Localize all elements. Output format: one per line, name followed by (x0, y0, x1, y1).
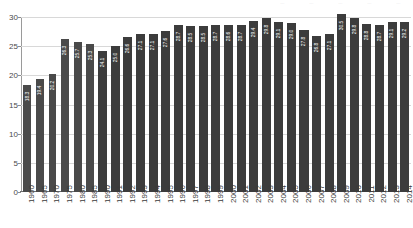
bar[interactable]: 26.3 (61, 39, 69, 192)
header-fragment: ... (281, 0, 285, 5)
bar[interactable]: 24.1 (98, 51, 107, 192)
bar[interactable]: 28.6 (224, 25, 233, 192)
bar[interactable]: 28.7 (211, 25, 220, 192)
bar-value-label: 26.6 (125, 44, 130, 53)
bar[interactable]: 30.5 (337, 14, 346, 192)
bar-slot: 27.1 (134, 17, 147, 192)
header-fragment: ... (397, 0, 401, 5)
bar[interactable]: 27.1 (325, 34, 334, 192)
bar-value-label: 28.6 (226, 32, 231, 41)
bar-slot: 29.4 (247, 17, 260, 192)
bar[interactable]: 25.0 (111, 46, 120, 192)
bar[interactable]: 29.8 (262, 18, 271, 192)
x-label-slot: 1997 (185, 193, 198, 228)
x-label-slot: 2007 (310, 193, 323, 228)
bar-value-label: 28.7 (213, 31, 218, 40)
bar-slot: 30.5 (335, 17, 348, 192)
bar-slot: 28.5 (197, 17, 210, 192)
bar-slot: 27.1 (323, 17, 336, 192)
bar-slot: 26.8 (310, 17, 323, 192)
bar-value-label: 28.5 (188, 33, 193, 42)
bar-slot: 25.3 (84, 17, 97, 192)
bar-value-label: 25.7 (75, 49, 80, 58)
y-axis-tick-label: 25 (9, 42, 18, 51)
bar[interactable]: 20.2 (49, 74, 57, 192)
plot-area: 051015202530 18.319.420.226.325.725.324.… (21, 17, 411, 192)
bar-slot: 28.8 (361, 17, 374, 192)
header-fragment: ... (368, 0, 372, 5)
bar-value-label: 29.1 (390, 29, 395, 38)
bar[interactable]: 29.8 (350, 18, 359, 192)
x-label-slot: 2014 (398, 193, 411, 228)
bar-value-label: 27.1 (151, 41, 156, 50)
x-label-slot: 1998 (197, 193, 210, 228)
bar-value-label: 26.8 (314, 43, 319, 52)
bar[interactable]: 27.1 (149, 34, 158, 192)
bar-value-label: 18.3 (25, 92, 30, 101)
bar[interactable]: 19.4 (36, 79, 44, 192)
x-label-slot: 1992 (122, 193, 135, 228)
x-label-slot: 1975 (59, 193, 72, 228)
bar[interactable]: 28.7 (375, 25, 384, 192)
x-label-slot: 2004 (273, 193, 286, 228)
bar-value-label: 29.1 (276, 29, 281, 38)
bar[interactable]: 27.6 (161, 31, 170, 192)
bar-value-label: 29.2 (402, 29, 407, 38)
bar[interactable]: 29.1 (388, 22, 397, 192)
x-label-slot: 1993 (134, 193, 147, 228)
bar[interactable]: 29.2 (400, 22, 409, 192)
x-axis-tick-label: 2014 (405, 185, 413, 203)
header-text-fragment: ............... (268, 0, 413, 8)
bar-value-label: 20.2 (50, 81, 55, 90)
bar-series: 18.319.420.226.325.725.324.125.026.627.1… (21, 17, 411, 192)
bar-slot: 28.5 (185, 17, 198, 192)
x-label-slot: 1965 (34, 193, 47, 228)
bar-slot: 20.2 (46, 17, 59, 192)
bar[interactable]: 29.0 (287, 23, 296, 192)
bar-value-label: 27.1 (327, 41, 332, 50)
bar-value-label: 26.3 (63, 45, 68, 54)
bar-slot: 29.8 (260, 17, 273, 192)
bar-slot: 25.0 (109, 17, 122, 192)
x-label-slot: 1999 (210, 193, 223, 228)
bar[interactable]: 29.4 (249, 21, 258, 193)
bar-slot: 26.3 (59, 17, 72, 192)
bar-value-label: 28.7 (176, 31, 181, 40)
bar-slot: 28.6 (222, 17, 235, 192)
x-label-slot: 2005 (285, 193, 298, 228)
header-fragment: ... (339, 0, 343, 5)
bar-slot: 24.1 (96, 17, 109, 192)
x-label-slot: 2006 (298, 193, 311, 228)
x-label-slot: 1996 (172, 193, 185, 228)
bar[interactable]: 28.5 (199, 26, 208, 192)
y-axis-tick-label: 30 (9, 13, 18, 22)
bar[interactable]: 27.1 (136, 34, 145, 192)
bar-value-label: 28.7 (239, 31, 244, 40)
bar-slot: 29.8 (348, 17, 361, 192)
bar-slot: 27.8 (298, 17, 311, 192)
bar[interactable]: 28.5 (186, 26, 195, 192)
bar[interactable]: 29.1 (274, 22, 283, 192)
bar[interactable]: 28.8 (362, 24, 371, 192)
bar-value-label: 28.7 (377, 31, 382, 40)
bar[interactable]: 26.6 (123, 37, 132, 192)
bar-slot: 29.1 (386, 17, 399, 192)
bar[interactable]: 25.3 (86, 44, 94, 192)
bar[interactable]: 18.3 (23, 85, 31, 192)
bar-value-label: 19.4 (37, 86, 42, 95)
x-label-slot: 1970 (46, 193, 59, 228)
x-label-slot: 2011 (361, 193, 374, 228)
bar-value-label: 24.1 (100, 58, 105, 67)
bar-chart: ............... 051015202530 18.319.420.… (0, 0, 413, 228)
x-axis-labels: 1960196519701975198019851990199119921993… (21, 193, 411, 228)
bar[interactable]: 25.7 (74, 42, 82, 192)
bar[interactable]: 28.7 (237, 25, 246, 192)
x-label-slot: 1990 (96, 193, 109, 228)
bar-slot: 28.7 (210, 17, 223, 192)
bar[interactable]: 27.8 (299, 30, 308, 192)
y-axis-tick-label: 10 (9, 129, 18, 138)
bar[interactable]: 26.8 (312, 36, 321, 192)
bar[interactable]: 28.7 (174, 25, 183, 192)
bar-value-label: 27.6 (163, 38, 168, 47)
bar-slot: 25.7 (71, 17, 84, 192)
